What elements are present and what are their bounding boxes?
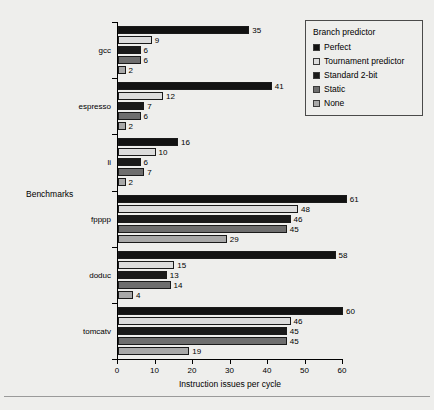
bar: [118, 122, 126, 130]
x-axis-tick: [305, 360, 306, 364]
y-axis-label: Benchmarks: [26, 189, 73, 199]
x-axis-tick: [117, 360, 118, 364]
bar-row: 4: [118, 291, 343, 299]
bar: [118, 225, 287, 233]
bar-value-label: 7: [147, 102, 151, 111]
legend-item: Standard 2-bit: [313, 70, 415, 80]
bar-value-label: 6: [144, 112, 148, 121]
bar-row: 46: [118, 215, 343, 223]
y-axis-tick-label: tomcatv: [83, 326, 111, 335]
chart-figure: 0102030405060 gcc359662espresso4112762li…: [0, 0, 434, 410]
legend-label: Perfect: [324, 42, 351, 52]
bar: [118, 251, 336, 259]
bar-row: 48: [118, 205, 343, 213]
legend-swatch-icon: [313, 58, 320, 65]
bar: [118, 291, 133, 299]
bottom-divider: [4, 396, 430, 397]
bar-value-label: 14: [174, 280, 183, 289]
bar-value-label: 2: [129, 66, 133, 75]
legend-swatch-icon: [313, 86, 320, 93]
x-axis-label: Instruction issues per cycle: [117, 379, 343, 389]
x-axis-tick-label: 40: [263, 366, 272, 375]
bar-row: 45: [118, 337, 343, 345]
bar-row: 58: [118, 251, 343, 259]
bar-row: 61: [118, 195, 343, 203]
bar-row: 2: [118, 178, 343, 186]
legend-label: Tournament predictor: [324, 56, 404, 66]
bar-value-label: 45: [290, 326, 299, 335]
bar-value-label: 6: [144, 56, 148, 65]
bar-value-label: 41: [275, 82, 284, 91]
bar: [118, 235, 227, 243]
bar: [118, 205, 298, 213]
bar: [118, 178, 126, 186]
x-axis-tick-label: 50: [300, 366, 309, 375]
bar-group: fpppp6148464529: [117, 191, 342, 247]
bar-value-label: 48: [301, 204, 310, 213]
x-axis-tick: [192, 360, 193, 364]
bar: [118, 317, 291, 325]
bar: [118, 195, 347, 203]
y-axis-tick-label: li: [107, 158, 111, 167]
bar-value-label: 13: [170, 270, 179, 279]
x-axis-tick-label: 20: [188, 366, 197, 375]
bar: [118, 148, 156, 156]
y-axis-tick-label: gcc: [99, 46, 111, 55]
bar: [118, 261, 174, 269]
bar: [118, 281, 171, 289]
legend-label: Standard 2-bit: [324, 70, 377, 80]
bar-row: 15: [118, 261, 343, 269]
bar-value-label: 15: [177, 260, 186, 269]
bar-value-label: 6: [144, 46, 148, 55]
bar: [118, 215, 291, 223]
bar-value-label: 19: [192, 346, 201, 355]
bar-group: li1610672: [117, 134, 342, 190]
bar-row: 29: [118, 235, 343, 243]
y-axis-tick-label: fpppp: [91, 214, 111, 223]
bar: [118, 168, 144, 176]
bar-value-label: 35: [252, 26, 261, 35]
bar-value-label: 45: [290, 336, 299, 345]
bar-row: 45: [118, 327, 343, 335]
bar: [118, 158, 141, 166]
bar: [118, 337, 287, 345]
legend-box: Branch predictor PerfectTournament predi…: [305, 20, 423, 116]
bar-row: 13: [118, 271, 343, 279]
bar: [118, 271, 167, 279]
y-axis-tick-label: doduc: [89, 270, 111, 279]
legend-swatch-icon: [313, 100, 320, 107]
bar: [118, 82, 272, 90]
legend-item: Static: [313, 84, 415, 94]
bar-row: 10: [118, 148, 343, 156]
bar: [118, 46, 141, 54]
bar-value-label: 60: [346, 306, 355, 315]
bar-row: 16: [118, 138, 343, 146]
legend-label: None: [324, 98, 344, 108]
bar-value-label: 9: [155, 36, 159, 45]
bar-value-label: 45: [290, 224, 299, 233]
legend-swatch-icon: [313, 72, 320, 79]
bar-value-label: 29: [230, 234, 239, 243]
bar-value-label: 12: [166, 92, 175, 101]
bar: [118, 327, 287, 335]
bar: [118, 92, 163, 100]
bar-row: 19: [118, 347, 343, 355]
bar-value-label: 61: [350, 194, 359, 203]
bar-value-label: 2: [129, 178, 133, 187]
bar-group: tomcatv6046454519: [117, 303, 342, 359]
bar-row: 2: [118, 122, 343, 130]
bar-row: 60: [118, 307, 343, 315]
bar-row: 14: [118, 281, 343, 289]
bar-value-label: 58: [339, 250, 348, 259]
bar-row: 6: [118, 158, 343, 166]
bar-row: 7: [118, 168, 343, 176]
bar-value-label: 46: [294, 316, 303, 325]
bar-value-label: 10: [159, 148, 168, 157]
legend-swatch-icon: [313, 44, 320, 51]
bar: [118, 56, 141, 64]
bar: [118, 138, 178, 146]
bar-value-label: 6: [144, 158, 148, 167]
bar: [118, 112, 141, 120]
x-axis-tick-label: 60: [338, 366, 347, 375]
x-axis-tick-label: 10: [150, 366, 159, 375]
